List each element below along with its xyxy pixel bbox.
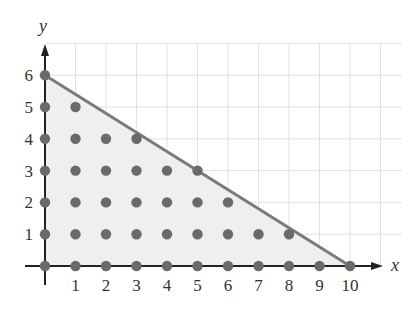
lattice-point (223, 197, 233, 207)
lattice-point (131, 229, 141, 239)
y-tick-label: 6 (25, 66, 34, 85)
x-axis-label: x (390, 255, 399, 275)
lattice-point (131, 261, 141, 271)
lattice-point (101, 134, 111, 144)
lattice-point (70, 197, 80, 207)
x-tick-label: 7 (254, 276, 263, 295)
y-tick-label: 4 (25, 130, 34, 149)
x-tick-label: 10 (342, 276, 359, 295)
lattice-point (162, 165, 172, 175)
lattice-point-chart: 12345678910 123456 x y (0, 0, 418, 321)
lattice-point (101, 229, 111, 239)
x-tick-label: 3 (132, 276, 141, 295)
x-tick-label: 4 (163, 276, 172, 295)
y-tick-label: 2 (25, 193, 34, 212)
y-tick-label: 5 (25, 98, 34, 117)
x-axis-arrow-icon (371, 262, 383, 270)
lattice-point (131, 197, 141, 207)
y-tick-labels: 123456 (25, 66, 34, 244)
lattice-point (131, 165, 141, 175)
lattice-point (223, 229, 233, 239)
lattice-point (162, 261, 172, 271)
lattice-point (192, 261, 202, 271)
x-tick-labels: 12345678910 (71, 276, 358, 295)
x-tick-label: 2 (102, 276, 111, 295)
lattice-point (40, 165, 50, 175)
lattice-point (101, 261, 111, 271)
x-tick-label: 8 (285, 276, 294, 295)
lattice-point (101, 197, 111, 207)
lattice-point (284, 229, 294, 239)
lattice-point (40, 102, 50, 112)
x-tick-label: 1 (71, 276, 80, 295)
lattice-point (284, 261, 294, 271)
lattice-point (70, 229, 80, 239)
lattice-point (40, 134, 50, 144)
x-tick-label: 5 (193, 276, 202, 295)
lattice-point (40, 70, 50, 80)
lattice-point (192, 229, 202, 239)
lattice-point (70, 165, 80, 175)
lattice-point (101, 165, 111, 175)
lattice-point (162, 197, 172, 207)
lattice-point (192, 197, 202, 207)
lattice-point (345, 261, 355, 271)
lattice-point (162, 229, 172, 239)
lattice-point (70, 134, 80, 144)
lattice-point (40, 197, 50, 207)
y-tick-label: 1 (25, 225, 34, 244)
lattice-point (314, 261, 324, 271)
lattice-point (70, 261, 80, 271)
x-tick-label: 6 (224, 276, 233, 295)
y-tick-label: 3 (25, 162, 34, 181)
x-tick-label: 9 (315, 276, 324, 295)
y-axis-arrow-icon (41, 44, 49, 56)
lattice-point (40, 229, 50, 239)
lattice-point (40, 261, 50, 271)
lattice-point (70, 102, 80, 112)
lattice-point (131, 134, 141, 144)
lattice-point (253, 229, 263, 239)
y-axis-label: y (37, 16, 47, 36)
lattice-point (253, 261, 263, 271)
lattice-point (223, 261, 233, 271)
lattice-point (192, 165, 202, 175)
